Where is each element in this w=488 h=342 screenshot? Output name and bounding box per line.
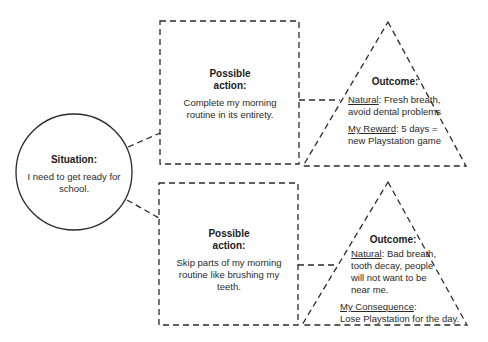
action-node-2: Possible action: Skip parts of my mornin… <box>170 228 288 293</box>
outcome-1-natural: Natural: Fresh breath, avoid dental prob… <box>348 94 442 118</box>
outcome-node-1: Outcome: Natural: Fresh breath, avoid de… <box>348 76 442 152</box>
situation-text: I need to get ready for school. <box>24 171 124 195</box>
situation-node: Situation: I need to get ready for schoo… <box>24 154 124 195</box>
outcome-2-title: Outcome: <box>341 234 459 246</box>
outcome-2-consequence: My Consequence: <box>340 301 459 313</box>
outcome-1-natural-label: Natural <box>348 94 379 105</box>
connector-situation-to-action-1 <box>128 133 160 147</box>
action-node-1: Possible action: Complete my morning rou… <box>172 68 288 121</box>
outcome-2-natural: Natural: Bad breath, tooth decay, people… <box>341 248 441 296</box>
action-2-title: Possible action: <box>170 228 288 252</box>
connector-situation-to-action-2 <box>127 200 159 218</box>
action-1-title: Possible action: <box>172 68 288 92</box>
outcome-2-consequence-text: Lose Playstation for the day. <box>340 313 459 325</box>
outcome-2-natural-label: Natural <box>351 248 382 259</box>
situation-title: Situation: <box>24 154 124 166</box>
outcome-1-reward-label: My Reward <box>348 123 396 134</box>
outcome-2-consequence-colon: : <box>414 301 417 312</box>
outcome-1-reward: My Reward: 5 days = new Playstation game <box>348 123 442 147</box>
outcome-1-title: Outcome: <box>348 76 442 88</box>
action-2-text: Skip parts of my morning routine like br… <box>170 257 288 293</box>
outcome-2-consequence-label: My Consequence <box>340 301 414 312</box>
action-1-text: Complete my morning routine in its entir… <box>172 97 288 121</box>
outcome-node-2: Outcome: Natural: Bad breath, tooth deca… <box>341 234 459 325</box>
